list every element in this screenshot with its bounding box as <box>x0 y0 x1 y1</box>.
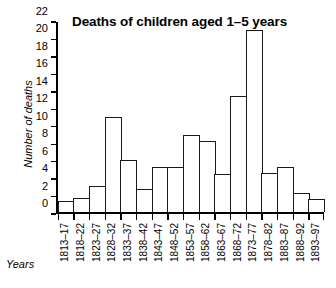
y-tick-mark <box>51 21 56 22</box>
x-tick-cell <box>136 214 152 220</box>
x-tick-label-cell: 1893–97 <box>308 222 324 284</box>
y-tick-label: 0 <box>42 198 48 209</box>
x-tick-cell <box>261 214 277 220</box>
bar <box>214 174 231 212</box>
y-tick-label: 18 <box>36 40 48 51</box>
bar <box>261 173 278 212</box>
y-axis-label: Number of deaths <box>22 69 34 179</box>
bar <box>167 167 184 212</box>
plot-area: 0246810121416182022 <box>56 22 324 214</box>
x-tick-cell <box>105 214 121 220</box>
bar <box>58 201 75 212</box>
x-tick-label: 1878–82 <box>264 223 274 262</box>
x-tick-label-cell: 1863–67 <box>214 222 230 284</box>
x-tick-label-cell: 1843–47 <box>152 222 168 284</box>
bar <box>120 160 137 213</box>
y-tick-label: 6 <box>42 145 48 156</box>
y-tick-mark <box>51 74 56 75</box>
x-tick-cell <box>183 214 199 220</box>
bar <box>136 189 153 212</box>
x-tick-label-cell: 1888–92 <box>293 222 309 284</box>
bar <box>293 193 310 212</box>
x-tick-cell <box>308 214 324 220</box>
y-tick-mark <box>51 56 56 57</box>
x-tick-cell <box>230 214 246 220</box>
x-tick-label-cell: 1828–32 <box>105 222 121 284</box>
y-tick-label: 2 <box>42 180 48 191</box>
x-tick-label: 1828–32 <box>107 223 117 262</box>
x-axis-label: Years <box>6 258 34 270</box>
bar <box>89 186 106 212</box>
x-tick-cell <box>167 214 183 220</box>
x-tick-cell <box>199 214 215 220</box>
x-tick-label: 1888–92 <box>296 223 306 262</box>
x-tick-label: 1873–77 <box>248 223 258 262</box>
x-tick-label: 1838–42 <box>139 223 149 262</box>
y-tick-mark <box>51 91 56 92</box>
x-tick-label-cell: 1883–87 <box>277 222 293 284</box>
x-tick-label-cell: 1838–42 <box>136 222 152 284</box>
x-tick-cell <box>152 214 168 220</box>
y-tick-mark <box>51 196 56 197</box>
x-tick-label-cell: 1818–22 <box>73 222 89 284</box>
y-tick-mark <box>51 161 56 162</box>
y-tick-label: 8 <box>42 128 48 139</box>
x-tick-label-cell: 1868–72 <box>230 222 246 284</box>
x-tick-label-cell: 1858–62 <box>199 222 215 284</box>
x-tick-cell <box>89 214 105 220</box>
y-tick-label: 20 <box>36 23 48 34</box>
x-tick-label: 1848–52 <box>170 223 180 262</box>
x-axis-tick-labels: 1813–171818–221823–271828–321833–371838–… <box>58 222 324 284</box>
x-tick-label: 1853–57 <box>186 223 196 262</box>
y-tick-mark <box>51 109 56 110</box>
bar <box>277 167 294 212</box>
bar <box>105 117 122 212</box>
x-tick-cell <box>293 214 309 220</box>
y-tick-mark <box>51 39 56 40</box>
x-tick-cell <box>58 214 74 220</box>
y-tick-mark <box>51 178 56 179</box>
x-tick-label: 1813–17 <box>60 223 70 262</box>
bar <box>230 96 247 212</box>
y-tick-mark <box>51 213 56 214</box>
y-tick-label: 14 <box>36 75 48 86</box>
x-tick-label-cell: 1813–17 <box>58 222 74 284</box>
x-tick-cell <box>246 214 262 220</box>
y-tick-label: 4 <box>42 163 48 174</box>
bar <box>246 30 263 213</box>
x-tick-label: 1868–72 <box>233 223 243 262</box>
x-axis-ticks <box>58 214 324 220</box>
x-tick-label: 1893–97 <box>311 223 321 262</box>
bar <box>308 199 325 212</box>
x-tick-label: 1843–47 <box>154 223 164 262</box>
bar <box>199 141 216 212</box>
y-tick-mark <box>51 126 56 127</box>
x-tick-label-cell: 1833–37 <box>120 222 136 284</box>
bar-series <box>58 22 324 212</box>
x-tick-label: 1818–22 <box>76 223 86 262</box>
x-tick-label: 1863–67 <box>217 223 227 262</box>
x-tick-label: 1833–37 <box>123 223 133 262</box>
x-tick-label: 1883–87 <box>280 223 290 262</box>
x-tick-label-cell: 1823–27 <box>89 222 105 284</box>
x-tick-label-cell: 1878–82 <box>261 222 277 284</box>
y-tick-label: 22 <box>36 6 48 17</box>
y-tick-label: 10 <box>36 110 48 121</box>
x-tick-cell <box>277 214 293 220</box>
y-tick-label: 16 <box>36 58 48 69</box>
x-tick-cell <box>120 214 136 220</box>
y-tick-mark <box>51 144 56 145</box>
chart-container: Deaths of children aged 1–5 years Number… <box>0 0 336 288</box>
y-tick-label: 12 <box>36 93 48 104</box>
x-tick-label: 1823–27 <box>92 223 102 262</box>
x-tick-cell <box>214 214 230 220</box>
x-tick-label: 1858–62 <box>201 223 211 262</box>
bar <box>183 135 200 213</box>
bar <box>73 198 90 213</box>
x-tick-cell <box>73 214 89 220</box>
x-tick-label-cell: 1853–57 <box>183 222 199 284</box>
bar <box>152 167 169 212</box>
x-tick-label-cell: 1873–77 <box>246 222 262 284</box>
x-tick-label-cell: 1848–52 <box>167 222 183 284</box>
